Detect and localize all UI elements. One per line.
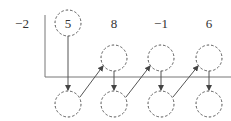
result-circle-1 xyxy=(55,91,81,117)
coefficient-1: 5 xyxy=(65,16,72,31)
divisor-label: −2 xyxy=(15,16,29,31)
product-circle-2 xyxy=(148,45,174,71)
product-circle-1 xyxy=(101,45,127,71)
coefficient-2: 8 xyxy=(111,16,118,31)
arrow-diagonal-icon xyxy=(173,66,198,97)
result-circle-4 xyxy=(196,91,222,117)
product-circle-3 xyxy=(196,45,222,71)
result-circle-3 xyxy=(148,91,174,117)
coefficient-3: −1 xyxy=(154,16,168,31)
result-circle-2 xyxy=(101,91,127,117)
arrow-diagonal-icon xyxy=(126,66,150,97)
coefficient-4: 6 xyxy=(206,16,213,31)
synthetic-division-diagram: −2 5 8 −1 6 xyxy=(0,0,231,121)
arrow-diagonal-icon xyxy=(80,66,103,97)
